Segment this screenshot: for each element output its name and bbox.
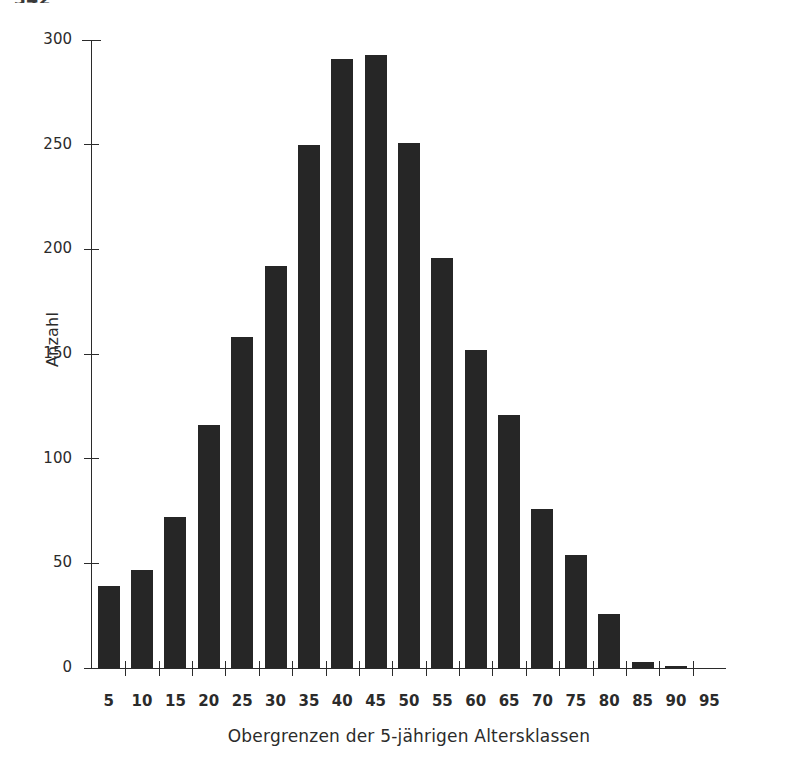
bar-75 <box>565 555 587 668</box>
y-tick-label-100: 100 <box>10 449 72 467</box>
x-tick-label-95: 95 <box>689 692 729 710</box>
x-axis-line <box>92 668 726 669</box>
bar-65 <box>498 415 520 668</box>
bar-40 <box>331 59 353 668</box>
bar-85 <box>632 662 654 668</box>
y-tick-label-300: 300 <box>10 30 72 48</box>
bar-90 <box>665 666 687 668</box>
bar-5 <box>98 586 120 668</box>
bar-20 <box>198 425 220 668</box>
bar-35 <box>298 145 320 668</box>
plot-area <box>92 40 726 668</box>
bar-10 <box>131 570 153 668</box>
bar-30 <box>265 266 287 668</box>
x-axis-title: Obergrenzen der 5-jährigen Altersklassen <box>92 726 726 746</box>
y-tick-label-200: 200 <box>10 239 72 257</box>
y-tick-label-50: 50 <box>10 553 72 571</box>
bar-70 <box>531 509 553 668</box>
y-tick-label-250: 250 <box>10 135 72 153</box>
bar-25 <box>231 337 253 668</box>
bar-15 <box>164 517 186 668</box>
bar-55 <box>431 258 453 668</box>
bar-60 <box>465 350 487 668</box>
bar-50 <box>398 143 420 668</box>
bar-80 <box>598 614 620 668</box>
histogram-figure: 050100150200250300 510152025303540455055… <box>0 0 786 761</box>
y-axis-title: Anzahl <box>43 280 62 400</box>
y-tick-label-150: 150 <box>10 344 72 362</box>
bar-45 <box>365 55 387 668</box>
y-tick-label-0: 0 <box>10 658 72 676</box>
bars-container <box>92 40 726 668</box>
